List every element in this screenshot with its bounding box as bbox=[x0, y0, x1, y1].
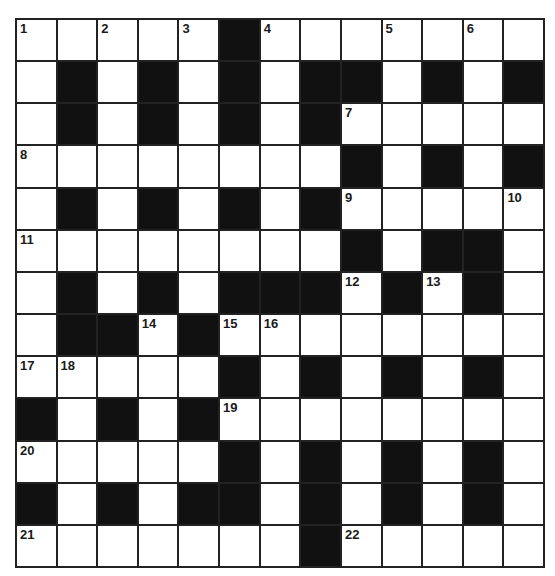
answer-cell[interactable] bbox=[504, 526, 543, 566]
answer-cell[interactable] bbox=[464, 189, 503, 229]
answer-cell[interactable] bbox=[423, 104, 462, 144]
answer-cell[interactable] bbox=[139, 231, 178, 271]
answer-cell[interactable] bbox=[464, 104, 503, 144]
answer-cell[interactable] bbox=[98, 231, 137, 271]
answer-cell[interactable] bbox=[504, 231, 543, 271]
answer-cell[interactable] bbox=[261, 442, 300, 482]
answer-cell[interactable] bbox=[504, 442, 543, 482]
answer-cell[interactable] bbox=[504, 484, 543, 524]
answer-cell[interactable] bbox=[423, 189, 462, 229]
answer-cell[interactable] bbox=[179, 231, 218, 271]
answer-cell[interactable] bbox=[139, 442, 178, 482]
answer-cell[interactable] bbox=[383, 62, 422, 102]
answer-cell[interactable] bbox=[383, 526, 422, 566]
answer-cell[interactable] bbox=[98, 273, 137, 313]
answer-cell[interactable] bbox=[464, 526, 503, 566]
answer-cell[interactable] bbox=[179, 357, 218, 397]
answer-cell[interactable] bbox=[220, 231, 259, 271]
answer-cell[interactable] bbox=[383, 104, 422, 144]
answer-cell[interactable] bbox=[504, 315, 543, 355]
answer-cell[interactable] bbox=[383, 189, 422, 229]
answer-cell[interactable] bbox=[179, 189, 218, 229]
answer-cell[interactable]: 6 bbox=[464, 20, 503, 60]
answer-cell[interactable]: 11 bbox=[17, 231, 56, 271]
answer-cell[interactable] bbox=[342, 442, 381, 482]
answer-cell[interactable] bbox=[464, 62, 503, 102]
answer-cell[interactable] bbox=[139, 146, 178, 186]
answer-cell[interactable] bbox=[17, 273, 56, 313]
answer-cell[interactable]: 7 bbox=[342, 104, 381, 144]
answer-cell[interactable] bbox=[261, 146, 300, 186]
answer-cell[interactable]: 12 bbox=[342, 273, 381, 313]
answer-cell[interactable] bbox=[179, 526, 218, 566]
answer-cell[interactable] bbox=[98, 104, 137, 144]
answer-cell[interactable] bbox=[139, 357, 178, 397]
answer-cell[interactable] bbox=[423, 20, 462, 60]
answer-cell[interactable] bbox=[383, 315, 422, 355]
answer-cell[interactable] bbox=[301, 231, 340, 271]
answer-cell[interactable] bbox=[139, 484, 178, 524]
answer-cell[interactable] bbox=[58, 442, 97, 482]
answer-cell[interactable] bbox=[342, 357, 381, 397]
answer-cell[interactable] bbox=[383, 231, 422, 271]
answer-cell[interactable] bbox=[464, 146, 503, 186]
answer-cell[interactable] bbox=[17, 104, 56, 144]
answer-cell[interactable] bbox=[383, 399, 422, 439]
answer-cell[interactable] bbox=[261, 231, 300, 271]
answer-cell[interactable]: 21 bbox=[17, 526, 56, 566]
answer-cell[interactable]: 18 bbox=[58, 357, 97, 397]
answer-cell[interactable] bbox=[423, 399, 462, 439]
answer-cell[interactable] bbox=[98, 62, 137, 102]
answer-cell[interactable]: 16 bbox=[261, 315, 300, 355]
answer-cell[interactable]: 1 bbox=[17, 20, 56, 60]
answer-cell[interactable] bbox=[301, 146, 340, 186]
answer-cell[interactable] bbox=[98, 357, 137, 397]
answer-cell[interactable] bbox=[423, 526, 462, 566]
answer-cell[interactable] bbox=[301, 315, 340, 355]
answer-cell[interactable]: 2 bbox=[98, 20, 137, 60]
answer-cell[interactable] bbox=[58, 484, 97, 524]
answer-cell[interactable] bbox=[179, 273, 218, 313]
answer-cell[interactable] bbox=[342, 315, 381, 355]
answer-cell[interactable] bbox=[261, 189, 300, 229]
answer-cell[interactable] bbox=[383, 146, 422, 186]
answer-cell[interactable] bbox=[98, 526, 137, 566]
answer-cell[interactable] bbox=[301, 399, 340, 439]
answer-cell[interactable] bbox=[98, 189, 137, 229]
answer-cell[interactable]: 13 bbox=[423, 273, 462, 313]
answer-cell[interactable] bbox=[504, 104, 543, 144]
answer-cell[interactable] bbox=[58, 20, 97, 60]
answer-cell[interactable] bbox=[464, 399, 503, 439]
answer-cell[interactable] bbox=[261, 526, 300, 566]
answer-cell[interactable]: 14 bbox=[139, 315, 178, 355]
answer-cell[interactable] bbox=[179, 104, 218, 144]
answer-cell[interactable] bbox=[139, 20, 178, 60]
answer-cell[interactable] bbox=[139, 399, 178, 439]
answer-cell[interactable] bbox=[464, 315, 503, 355]
answer-cell[interactable] bbox=[139, 526, 178, 566]
answer-cell[interactable]: 17 bbox=[17, 357, 56, 397]
answer-cell[interactable] bbox=[179, 62, 218, 102]
answer-cell[interactable] bbox=[58, 526, 97, 566]
answer-cell[interactable] bbox=[58, 399, 97, 439]
answer-cell[interactable] bbox=[17, 62, 56, 102]
answer-cell[interactable] bbox=[504, 357, 543, 397]
answer-cell[interactable] bbox=[423, 357, 462, 397]
answer-cell[interactable] bbox=[504, 273, 543, 313]
answer-cell[interactable] bbox=[58, 231, 97, 271]
answer-cell[interactable]: 22 bbox=[342, 526, 381, 566]
answer-cell[interactable]: 9 bbox=[342, 189, 381, 229]
answer-cell[interactable] bbox=[261, 104, 300, 144]
answer-cell[interactable] bbox=[423, 315, 462, 355]
answer-cell[interactable] bbox=[342, 484, 381, 524]
answer-cell[interactable] bbox=[17, 189, 56, 229]
answer-cell[interactable] bbox=[179, 442, 218, 482]
answer-cell[interactable]: 4 bbox=[261, 20, 300, 60]
answer-cell[interactable] bbox=[261, 484, 300, 524]
answer-cell[interactable]: 8 bbox=[17, 146, 56, 186]
answer-cell[interactable] bbox=[342, 20, 381, 60]
answer-cell[interactable] bbox=[504, 399, 543, 439]
answer-cell[interactable]: 15 bbox=[220, 315, 259, 355]
answer-cell[interactable]: 19 bbox=[220, 399, 259, 439]
answer-cell[interactable] bbox=[261, 62, 300, 102]
